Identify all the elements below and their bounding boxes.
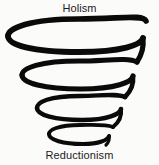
spiral-loop-2-back — [22, 59, 137, 75]
spiral-figure: Holism — [0, 0, 159, 165]
spiral-loop-4-front — [49, 134, 109, 144]
spiral-loop-4-back — [49, 125, 113, 134]
spiral-loop-1-front — [8, 36, 143, 52]
conical-spiral-icon — [0, 0, 159, 165]
spiral-loop-1-back — [8, 17, 146, 36]
spiral-loop-3-front — [37, 108, 121, 120]
spiral-loop-3-back — [37, 95, 125, 108]
spiral-loop-2-front — [22, 75, 133, 89]
reductionism-label: Reductionism — [0, 149, 159, 162]
